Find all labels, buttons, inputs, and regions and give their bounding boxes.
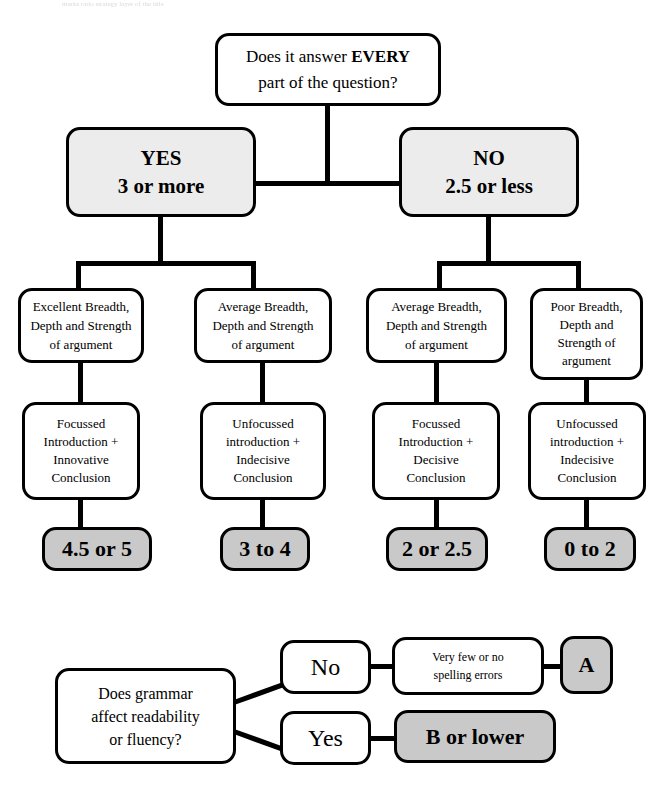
criteria-3-line-2: Depth and Strength — [373, 316, 500, 335]
answer-no-label: No — [283, 653, 368, 681]
grade-1-label: 4.5 or 5 — [45, 536, 149, 562]
branch-yes-value: 3 or more — [73, 172, 249, 200]
node-grammar-question: Does grammar affect readability or fluen… — [55, 668, 236, 764]
grammar-question-line-2: affect readability — [62, 705, 229, 728]
connector-yes-bar — [76, 261, 256, 266]
criteria-4-text: Poor Breadth, Depth and Strength of argu… — [533, 298, 640, 370]
grade-a-label: A — [563, 652, 610, 678]
criteria-3-text: Average Breadth, Depth and Strength of a… — [369, 297, 504, 354]
node-conclusion-1: Focussed Introduction + Innovative Concl… — [22, 402, 140, 500]
node-branch-no: NO 2.5 or less — [399, 127, 579, 217]
branch-yes-text: YES 3 or more — [69, 144, 253, 200]
spelling-line-2: spelling errors — [399, 666, 537, 684]
grade-2-label: 3 to 4 — [223, 536, 307, 562]
criteria-1-line-2: Depth and Strength — [25, 316, 137, 335]
grammar-question-line-1: Does grammar — [62, 682, 229, 705]
criteria-1-text: Excellent Breadth, Depth and Strength of… — [21, 297, 141, 354]
connector-root-stem — [325, 104, 330, 184]
answer-yes-label: Yes — [283, 724, 368, 752]
criteria-4-line-2: Depth and — [537, 316, 636, 334]
conclusion-4-line-2: introduction + — [535, 433, 639, 451]
node-criteria-4: Poor Breadth, Depth and Strength of argu… — [530, 288, 643, 380]
conclusion-1-line-4: Conclusion — [29, 469, 133, 487]
conclusion-3-line-1: Focussed — [379, 415, 493, 433]
branch-yes-label: YES — [73, 144, 249, 172]
grade-b-label: B or lower — [397, 724, 553, 750]
conclusion-2-line-4: Conclusion — [207, 469, 319, 487]
connector-conclusion-2-to-grade — [260, 498, 265, 528]
criteria-1-line-1: Excellent Breadth, — [25, 297, 137, 316]
node-conclusion-2: Unfocussed introduction + Indecisive Con… — [200, 402, 326, 500]
conclusion-4-line-1: Unfocussed — [535, 415, 639, 433]
root-question-line2: part of the question? — [222, 70, 434, 96]
scan-remnant-text: marks ratio strategy layer of the title — [62, 0, 280, 9]
grammar-question-text: Does grammar affect readability or fluen… — [58, 682, 233, 751]
connector-yes-drop-left — [76, 261, 81, 289]
criteria-2-line-2: Depth and Strength — [201, 316, 325, 335]
connector-conclusion-3-to-grade — [434, 498, 439, 528]
conclusion-4-line-3: Indecisive — [535, 451, 639, 469]
connector-conclusion-4-to-grade — [584, 498, 589, 528]
criteria-4-line-3: Strength of — [537, 334, 636, 352]
conclusion-4-text: Unfocussed introduction + Indecisive Con… — [531, 415, 643, 487]
criteria-2-line-3: of argument — [201, 335, 325, 354]
node-conclusion-4: Unfocussed introduction + Indecisive Con… — [528, 402, 646, 500]
node-branch-yes: YES 3 or more — [66, 127, 256, 217]
criteria-1-line-3: of argument — [25, 335, 137, 354]
spelling-errors-text: Very few or no spelling errors — [395, 648, 541, 684]
node-root-question: Does it answer EVERY part of the questio… — [215, 33, 441, 106]
branch-no-label: NO — [406, 144, 572, 172]
node-criteria-1: Excellent Breadth, Depth and Strength of… — [18, 288, 144, 363]
conclusion-3-text: Focussed Introduction + Decisive Conclus… — [375, 415, 497, 487]
conclusion-2-line-1: Unfocussed — [207, 415, 319, 433]
criteria-3-line-3: of argument — [373, 335, 500, 354]
connector-no-drop-left — [437, 261, 442, 289]
conclusion-1-line-3: Innovative — [29, 451, 133, 469]
conclusion-1-line-1: Focussed — [29, 415, 133, 433]
node-spelling-errors: Very few or no spelling errors — [392, 637, 544, 695]
conclusion-1-line-2: Introduction + — [29, 433, 133, 451]
node-grade-2: 3 to 4 — [220, 527, 310, 571]
flowchart-page: marks ratio strategy layer of the title … — [0, 0, 663, 796]
node-grade-1: 4.5 or 5 — [42, 527, 152, 571]
connector-no-bar — [437, 261, 581, 266]
conclusion-2-line-2: introduction + — [207, 433, 319, 451]
conclusion-3-line-2: Introduction + — [379, 433, 493, 451]
criteria-2-text: Average Breadth, Depth and Strength of a… — [197, 297, 329, 354]
connector-no-stem — [486, 215, 491, 264]
grade-3-label: 2 or 2.5 — [389, 536, 485, 562]
node-grade-3: 2 or 2.5 — [386, 527, 488, 571]
conclusion-3-line-3: Decisive — [379, 451, 493, 469]
conclusion-1-text: Focussed Introduction + Innovative Concl… — [25, 415, 137, 487]
connector-no-drop-right — [576, 261, 581, 289]
criteria-4-line-4: argument — [537, 352, 636, 370]
node-grade-a: A — [560, 636, 613, 694]
node-answer-no: No — [280, 640, 371, 694]
branch-no-text: NO 2.5 or less — [402, 144, 576, 200]
root-question-line1-pre: Does it answer — [246, 47, 351, 66]
grammar-question-line-3: or fluency? — [62, 728, 229, 751]
spelling-line-1: Very few or no — [399, 648, 537, 666]
criteria-3-line-1: Average Breadth, — [373, 297, 500, 316]
node-grade-b: B or lower — [394, 710, 556, 763]
conclusion-2-text: Unfocussed introduction + Indecisive Con… — [203, 415, 323, 487]
connector-conclusion-1-to-grade — [78, 498, 83, 528]
root-question-emphasis: EVERY — [351, 47, 410, 66]
node-grade-4: 0 to 2 — [544, 527, 636, 571]
conclusion-4-line-4: Conclusion — [535, 469, 639, 487]
node-answer-yes: Yes — [280, 711, 371, 765]
connector-criteria-2-to-conclusion — [260, 361, 265, 404]
grade-4-label: 0 to 2 — [547, 536, 633, 562]
connector-criteria-3-to-conclusion — [434, 361, 439, 404]
connector-criteria-4-to-conclusion — [584, 378, 589, 404]
connector-yes-drop-right — [251, 261, 256, 289]
connector-root-bar — [255, 181, 400, 186]
connector-yes-stem — [158, 215, 163, 264]
conclusion-2-line-3: Indecisive — [207, 451, 319, 469]
node-criteria-2: Average Breadth, Depth and Strength of a… — [194, 288, 332, 363]
branch-no-value: 2.5 or less — [406, 172, 572, 200]
connector-no-to-spelling — [368, 664, 395, 669]
root-question-text: Does it answer EVERY part of the questio… — [218, 44, 438, 96]
criteria-2-line-1: Average Breadth, — [201, 297, 325, 316]
conclusion-3-line-4: Conclusion — [379, 469, 493, 487]
